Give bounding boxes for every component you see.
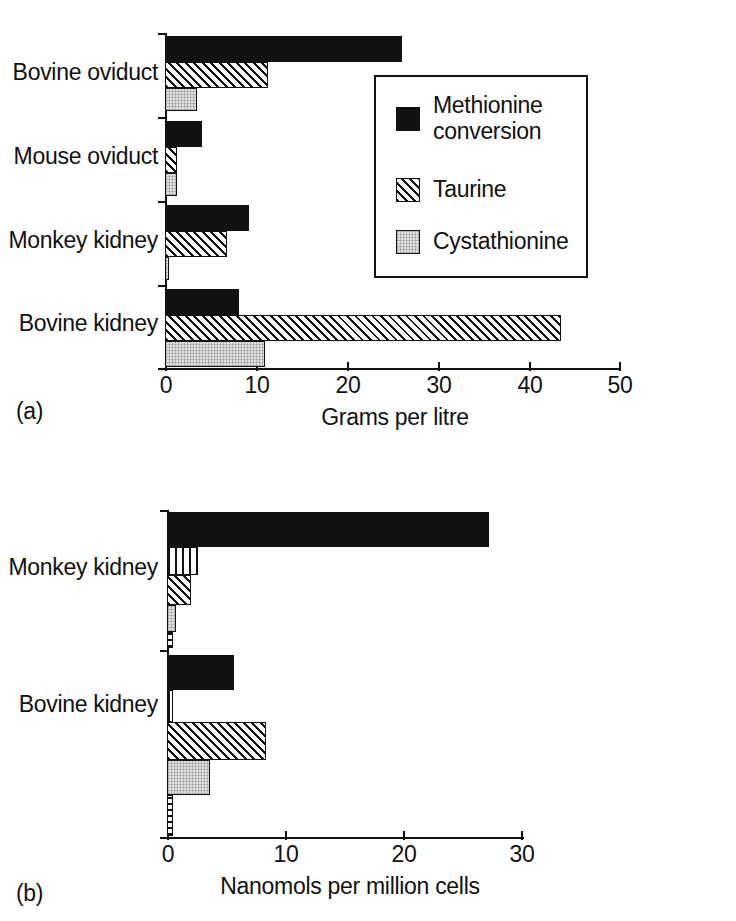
x-tick [438, 362, 440, 371]
x-tick-label: 20 [318, 372, 378, 399]
bar-glycine-monkey-kidney [167, 512, 489, 547]
bar-taurine-mouse-oviduct [165, 147, 177, 173]
bar-glutamine-bovine-kidney [167, 795, 173, 836]
bar-serine-monkey-kidney [167, 547, 198, 575]
legend-label: Cystathionine [433, 229, 568, 255]
y-tick [158, 33, 167, 35]
bar-cystathionine-bovine-oviduct [165, 88, 197, 111]
x-axis-title-b: Nanomols per million cells [165, 873, 535, 900]
x-tick [403, 831, 405, 840]
x-axis-b [167, 837, 524, 839]
category-label-bovine-kidney: Bovine kidney [0, 692, 158, 718]
bar-methionine-mouse-oviduct [165, 121, 202, 147]
x-tick-label: 0 [138, 841, 198, 868]
panel-tag-b: (b) [16, 880, 43, 907]
legend-swatch-solid-icon [396, 107, 420, 131]
y-tick [158, 117, 167, 119]
bar-glutamine-monkey-kidney [167, 632, 173, 648]
category-label-bovine-kidney: Bovine kidney [0, 311, 158, 337]
chart-panel-b: 0 10 20 30 Monkey kidney Bovine kidney G… [0, 460, 736, 921]
legend-a: Methionine conversion Taurine Cystathion… [374, 75, 588, 278]
x-axis-title-a: Grams per litre [215, 404, 575, 431]
y-tick [158, 285, 167, 287]
bar-methionine-monkey-kidney [165, 205, 249, 231]
bar-taurine-monkey-kidney [165, 231, 227, 257]
x-tick-label: 30 [409, 372, 469, 399]
bar-methionine-bovine-kidney [165, 289, 239, 315]
legend-swatch-light-stipple-icon [396, 230, 420, 254]
y-tick [160, 650, 169, 652]
x-tick-label: 50 [590, 372, 650, 399]
category-label-monkey-kidney: Monkey kidney [0, 228, 158, 254]
category-label-mouse-oviduct: Mouse oviduct [0, 144, 158, 170]
x-tick-label: 0 [136, 372, 196, 399]
category-label-bovine-oviduct: Bovine oviduct [0, 60, 158, 86]
legend-item-methionine: Methionine conversion [396, 93, 573, 145]
bar-alanine-bovine-kidney [167, 722, 266, 760]
x-tick-label: 40 [500, 372, 560, 399]
x-axis-a [165, 368, 620, 370]
bar-taurine-bovine-oviduct [165, 62, 268, 88]
bar-cystathionine-mouse-oviduct [165, 173, 177, 196]
category-label-monkey-kidney: Monkey kidney [0, 555, 158, 581]
x-tick [285, 831, 287, 840]
bar-taurine-bovine-kidney [165, 315, 561, 341]
bar-threonine-monkey-kidney [167, 605, 176, 632]
x-tick-label: 20 [374, 841, 434, 868]
bar-alanine-monkey-kidney [167, 575, 191, 605]
bar-methionine-bovine-oviduct [165, 36, 402, 62]
x-tick [619, 362, 621, 371]
x-tick-label: 10 [227, 372, 287, 399]
x-tick [529, 362, 531, 371]
x-tick [521, 831, 523, 840]
x-tick-label: 10 [256, 841, 316, 868]
chart-panel-a: 0 10 20 30 40 50 Bovine oviduct Mouse ov… [0, 0, 736, 460]
x-tick-label: 30 [492, 841, 552, 868]
legend-label: Taurine [433, 177, 506, 203]
legend-item-cystathionine: Cystathionine [396, 229, 568, 255]
legend-label: Methionine conversion [433, 93, 573, 145]
x-tick [347, 362, 349, 371]
panel-tag-a: (a) [16, 398, 43, 425]
bar-glycine-bovine-kidney [167, 655, 234, 690]
legend-swatch-diagonal-hatch-icon [396, 178, 420, 202]
bar-serine-bovine-kidney [167, 690, 173, 722]
legend-item-taurine: Taurine [396, 177, 506, 203]
bar-threonine-bovine-kidney [167, 760, 210, 795]
y-tick [158, 201, 167, 203]
bar-cystathionine-monkey-kidney [165, 257, 169, 280]
bar-cystathionine-bovine-kidney [165, 341, 265, 367]
